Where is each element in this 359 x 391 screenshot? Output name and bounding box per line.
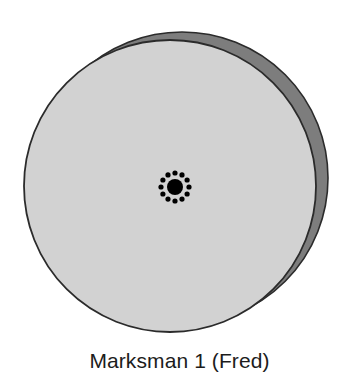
bullet-hole-5 <box>185 191 190 196</box>
target-disc-graphic <box>0 0 359 350</box>
marksman-target-figure: Marksman 1 (Fred) <box>0 0 359 391</box>
bullet-hole-center <box>167 179 183 195</box>
bullet-hole-6 <box>179 197 184 202</box>
bullet-hole-3 <box>185 177 190 182</box>
bullet-hole-2 <box>179 172 184 177</box>
bullet-hole-8 <box>165 197 170 202</box>
bullet-hole-11 <box>160 177 165 182</box>
bullet-hole-7 <box>172 198 177 203</box>
target-area <box>0 0 359 350</box>
bullet-hole-12 <box>165 172 170 177</box>
bullet-hole-9 <box>160 191 165 196</box>
bullet-hole-10 <box>158 184 163 189</box>
bullet-hole-1 <box>172 170 177 175</box>
figure-caption: Marksman 1 (Fred) <box>0 348 359 374</box>
bullet-hole-4 <box>186 184 191 189</box>
